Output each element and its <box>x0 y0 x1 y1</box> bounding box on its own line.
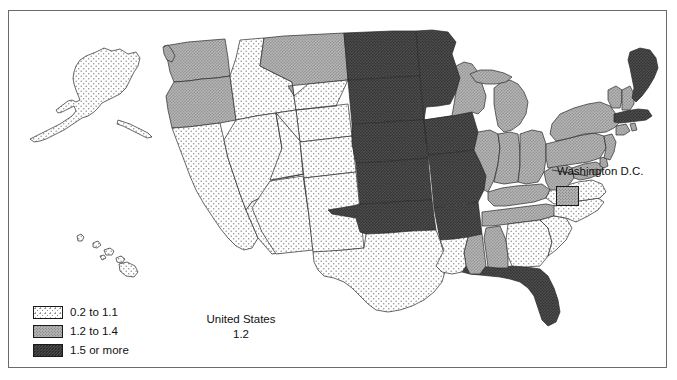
state-KY <box>488 184 550 206</box>
legend-swatch-light-stipple <box>33 306 63 319</box>
state-WA <box>164 39 230 82</box>
legend-swatch-dark-stipple <box>33 344 63 357</box>
state-FL <box>462 266 560 326</box>
state-GA <box>506 220 552 267</box>
legend-item-mid: 1.2 to 1.4 <box>33 322 129 341</box>
legend-label-mid: 1.2 to 1.4 <box>70 326 118 338</box>
state-MI-lp <box>494 80 528 132</box>
state-KS <box>356 158 432 204</box>
state-ND <box>344 31 420 80</box>
legend-item-low: 0.2 to 1.1 <box>33 303 129 322</box>
legend-item-high: 1.5 or more <box>33 341 129 360</box>
state-CO <box>300 136 356 178</box>
state-AR <box>434 202 482 240</box>
state-VT <box>608 86 622 108</box>
state-ME <box>628 48 658 102</box>
state-OR <box>166 76 236 128</box>
state-AK-aleutians <box>117 120 152 138</box>
state-MO <box>428 150 486 208</box>
state-OH <box>518 130 546 184</box>
legend-swatch-medium-stipple <box>33 325 63 338</box>
dc-callout-swatch <box>556 186 579 206</box>
state-MI-up <box>470 70 512 84</box>
state-CT <box>616 124 630 135</box>
state-MA <box>614 109 652 123</box>
national-summary: United States 1.2 <box>186 312 296 342</box>
legend-label-low: 0.2 to 1.1 <box>70 307 118 319</box>
state-WY <box>294 80 352 142</box>
state-AL <box>484 226 508 268</box>
state-NJ <box>604 134 616 160</box>
dc-callout-label: Washington D.C. <box>557 165 644 177</box>
state-IA2 <box>424 112 478 155</box>
state-HI <box>77 234 138 277</box>
national-label: United States <box>186 312 296 327</box>
state-AK <box>30 48 140 142</box>
legend-label-high: 1.5 or more <box>70 345 129 357</box>
legend: 0.2 to 1.1 1.2 to 1.4 1.5 or more <box>33 303 129 360</box>
state-SD <box>348 76 424 124</box>
state-NE <box>352 120 428 163</box>
state-RI <box>630 123 637 131</box>
national-value: 1.2 <box>186 327 296 342</box>
